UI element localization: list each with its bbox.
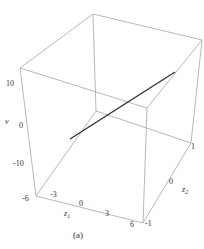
z-tick-10: 10 [6,79,14,88]
z-tick-minus10: -10 [13,159,24,168]
x-tick-minus3: -3 [50,190,57,199]
x-tick-minus6: -6 [22,194,29,203]
y-axis-label: z2 [181,185,188,195]
z-axis-label: v [5,117,9,126]
y-tick-0: 0 [169,177,173,186]
y-tick-minus1: -1 [145,219,152,228]
x-axis-label: z1 [63,209,70,219]
x-tick-6: 6 [130,220,134,229]
x-tick-0: 0 [79,199,83,208]
z-tick-0: 0 [19,121,23,130]
bounding-box [20,14,202,223]
y-tick-1: 1 [191,142,195,151]
x-tick-3: 3 [105,209,109,218]
plot-3d: 10 0 -10 v -6 -3 0 3 6 z1 1 0 -1 z2 (a) [0,0,204,249]
figure-caption: (a) [73,230,83,240]
trajectory-line [70,72,175,139]
